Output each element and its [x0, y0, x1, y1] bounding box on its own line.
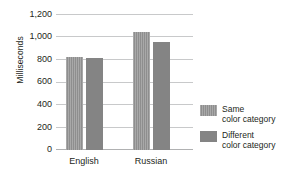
y-tick-label-1000: 1,000	[8, 32, 52, 41]
y-tick-label-200: 200	[8, 123, 52, 132]
y-tick-label-400: 400	[8, 100, 52, 109]
legend-item-same: Same color category	[200, 104, 293, 124]
plot-area	[56, 14, 193, 150]
bar-russian-same	[133, 32, 150, 150]
gridline-1200	[56, 14, 193, 15]
x-tick-label-russian: Russian	[116, 156, 186, 166]
legend-swatch-different-icon	[200, 131, 217, 142]
bar-english-different	[86, 58, 103, 150]
y-tick-label-600: 600	[8, 77, 52, 86]
y-tick-label-0: 0	[8, 145, 52, 154]
bar-chart: Milliseconds 1,200 1,000 800 600 400 200…	[0, 0, 293, 179]
legend-label-same-line2: color category	[222, 114, 275, 124]
legend-label-different-line1: Different	[222, 130, 275, 140]
legend-label-same-line1: Same	[222, 104, 275, 114]
legend-label-different-line2: color category	[222, 140, 275, 150]
gridline-1000	[56, 36, 193, 37]
y-tick-label-800: 800	[8, 55, 52, 64]
y-tick-label-1200: 1,200	[8, 10, 52, 19]
bar-russian-different	[153, 42, 170, 150]
legend-item-different: Different color category	[200, 130, 293, 150]
legend-label-different: Different color category	[222, 130, 275, 150]
legend-swatch-same-icon	[200, 105, 217, 116]
chart-legend: Same color category Different color cate…	[200, 104, 293, 156]
x-tick-label-english: English	[49, 156, 119, 166]
legend-label-same: Same color category	[222, 104, 275, 124]
bar-english-same	[66, 57, 83, 150]
